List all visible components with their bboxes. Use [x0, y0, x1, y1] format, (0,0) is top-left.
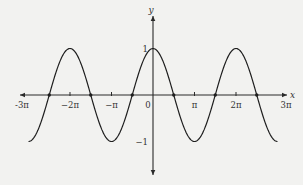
x-axis-right-arrow-icon — [282, 93, 287, 98]
x-axis-label: x — [290, 90, 295, 100]
x-tick-label: −2π — [61, 100, 80, 110]
y-tick-label: −1 — [135, 137, 148, 147]
x-tick-label: π — [192, 100, 198, 110]
y-axis-up-arrow-icon — [151, 16, 156, 21]
zero-point — [89, 93, 92, 96]
axes — [20, 16, 287, 175]
x-tick-label: 3π — [281, 100, 292, 110]
x-axis-left-arrow-icon — [20, 93, 25, 98]
x-tick-label: -3π — [15, 100, 29, 110]
x-tick-label: 0 — [145, 100, 150, 110]
cosine-graph: -3π−2π−π0π2π3π1−1 x y — [0, 0, 303, 185]
y-tick-label: 1 — [143, 44, 148, 54]
zero-point — [255, 93, 258, 96]
y-axis-down-arrow-icon — [151, 170, 156, 175]
zero-point — [48, 93, 51, 96]
x-tick-label: 2π — [231, 100, 242, 110]
zero-point — [131, 93, 134, 96]
y-axis-label: y — [147, 5, 154, 15]
x-tick-label: −π — [105, 100, 118, 110]
zero-point — [172, 93, 175, 96]
zero-point — [214, 93, 217, 96]
